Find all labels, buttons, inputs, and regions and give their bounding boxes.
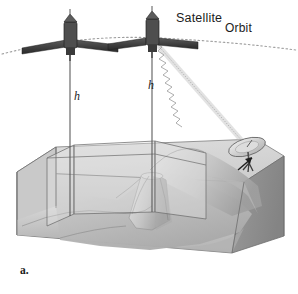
panel-label: a. <box>20 265 29 277</box>
orbit-label: Orbit <box>225 22 252 34</box>
satellite-label: Satellite <box>176 12 222 25</box>
satellite-right-panel-a <box>108 38 146 50</box>
swath-plane-right <box>155 141 206 219</box>
satellite-left <box>22 9 118 61</box>
satellite-left-nose <box>64 14 77 22</box>
figure-canvas <box>0 0 298 294</box>
satellite-left-bus <box>64 22 77 48</box>
height-label-left: h <box>74 90 80 102</box>
satellite-left-module <box>66 48 75 55</box>
satellite-left-panel-a <box>22 40 66 54</box>
satellite-right-nose <box>146 11 159 19</box>
satellite-altimetry-figure: Satellite Orbit h h a. <box>0 0 298 294</box>
satellite-right-bus <box>146 19 159 45</box>
radar-beam <box>156 43 243 142</box>
satellite-right-module <box>148 45 157 52</box>
swath-plane-mid <box>74 141 155 214</box>
satellite-right-panel-b <box>158 38 198 49</box>
height-label-right: h <box>148 79 154 91</box>
